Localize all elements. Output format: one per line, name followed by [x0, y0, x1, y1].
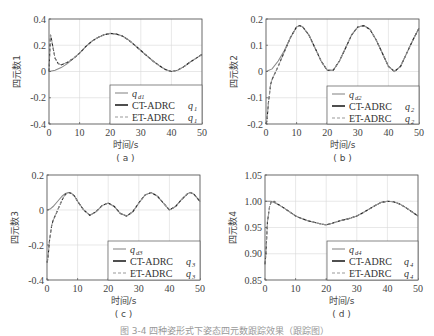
legend-subscript: 1	[194, 105, 197, 112]
x-tick-label: 40	[383, 127, 393, 138]
y-axis-label: 四元数4	[227, 211, 238, 244]
y-tick-label: -0.1	[247, 92, 263, 103]
x-tick-label: 10	[73, 283, 83, 294]
y-tick-label: 0.90	[245, 248, 263, 259]
x-tick-label: 30	[136, 127, 146, 138]
x-tick-label: 0	[264, 127, 269, 138]
y-tick-label: 1.00	[245, 196, 263, 207]
legend-subscript: 1	[194, 117, 197, 124]
x-tick-label: 50	[197, 127, 207, 138]
series-line-ct-adrc	[49, 33, 202, 71]
x-tick-label: 50	[413, 283, 423, 294]
x-tick-label: 0	[47, 127, 52, 138]
y-tick-label: 0.85	[245, 275, 263, 286]
legend: qd3CT-ADRCq3ET-ADRCq3	[108, 241, 200, 280]
x-tick-label: 40	[164, 283, 174, 294]
y-tick-label: -0.2	[28, 240, 44, 251]
x-axis-label: 时间/s	[113, 139, 139, 150]
y-tick-label: -0.2	[30, 92, 46, 103]
legend-symbol: q	[130, 244, 135, 255]
subplot-label: ( a )	[116, 153, 134, 163]
y-tick-label: -0.2	[247, 119, 263, 130]
y-tick-label: 0.2	[251, 14, 264, 25]
y-axis-label: 四元数3	[9, 211, 20, 244]
y-tick-label: 0.4	[34, 14, 47, 25]
legend-symbol: q	[405, 113, 410, 124]
series-line-reference	[266, 26, 419, 72]
series-line-reference	[49, 33, 202, 71]
subplot-d: 010203040500.850.900.951.001.05时间/s四元数4(…	[227, 170, 423, 320]
legend: qd2CT-ADRCq2ET-ADRCq2	[327, 86, 419, 125]
x-axis-label: 时间/s	[329, 295, 355, 306]
x-tick-label: 20	[103, 283, 113, 294]
legend-label: ET-ADRC	[130, 268, 173, 279]
x-tick-label: 10	[292, 127, 302, 138]
x-tick-label: 30	[352, 283, 362, 294]
legend-symbol: q	[349, 244, 354, 255]
x-tick-label: 50	[195, 283, 205, 294]
y-tick-label: 0.2	[32, 170, 45, 181]
legend-label: ET-ADRC	[132, 112, 175, 123]
y-tick-label: 0	[39, 205, 44, 216]
y-tick-label: -0.4	[30, 119, 46, 130]
legend-symbol: q	[405, 101, 410, 112]
subplot-c: 01020304050-0.4-0.200.2时间/s四元数3( c )qd3C…	[9, 170, 205, 320]
legend-symbol: q	[132, 88, 137, 99]
x-tick-label: 30	[134, 283, 144, 294]
legend-symbol: q	[186, 256, 191, 267]
legend-label: ET-ADRC	[349, 268, 392, 279]
legend-label: ET-ADRC	[349, 113, 392, 124]
figure-caption: 图 3-4 四种姿形式下姿态四元数跟踪效果（跟踪图）	[120, 325, 329, 336]
subplot-a: 01020304050-0.4-0.200.20.4时间/s四元数1( a )q…	[11, 14, 207, 164]
y-tick-label: 1.05	[245, 170, 263, 181]
x-tick-label: 20	[105, 127, 115, 138]
y-tick-label: 0	[41, 66, 46, 77]
series-line-reference	[265, 201, 418, 225]
legend-label: CT-ADRC	[132, 100, 175, 111]
x-axis-label: 时间/s	[330, 139, 356, 150]
y-tick-label: 0.2	[34, 40, 47, 51]
figure-canvas: 01020304050-0.4-0.200.20.4时间/s四元数1( a )q…	[0, 0, 434, 336]
subplot-b: 01020304050-0.2-0.100.10.2时间/s四元数2( b )q…	[228, 14, 424, 164]
x-tick-label: 20	[322, 127, 332, 138]
x-tick-label: 20	[321, 283, 331, 294]
subplot-label: ( b )	[333, 153, 351, 163]
x-tick-label: 40	[382, 283, 392, 294]
y-tick-label: 0.95	[245, 222, 263, 233]
y-tick-label: 0	[258, 66, 263, 77]
x-tick-label: 10	[291, 283, 301, 294]
legend-symbol: q	[188, 100, 193, 111]
legend-label: CT-ADRC	[349, 101, 392, 112]
y-tick-label: 0.1	[251, 40, 264, 51]
legend-symbol: q	[186, 268, 191, 279]
x-tick-label: 30	[353, 127, 363, 138]
series-line-et-adrc	[49, 33, 202, 71]
legend-symbol: q	[404, 256, 409, 267]
y-axis-label: 四元数1	[11, 55, 22, 88]
x-tick-label: 0	[263, 283, 268, 294]
y-axis-label: 四元数2	[228, 55, 239, 88]
legend: qd1CT-ADRCq1ET-ADRCq1	[110, 85, 202, 124]
legend: qd4CT-ADRCq4ET-ADRCq4	[327, 241, 418, 280]
subplot-label: ( c )	[115, 309, 133, 319]
y-tick-label: -0.4	[28, 275, 44, 286]
legend-label: CT-ADRC	[130, 256, 173, 267]
legend-symbol: q	[188, 112, 193, 123]
legend-symbol: q	[349, 89, 354, 100]
x-tick-label: 0	[45, 283, 50, 294]
x-tick-label: 40	[166, 127, 176, 138]
legend-symbol: q	[404, 268, 409, 279]
subplot-label: ( d )	[332, 309, 350, 319]
legend-label: CT-ADRC	[349, 256, 392, 267]
x-tick-label: 10	[75, 127, 85, 138]
x-tick-label: 50	[414, 127, 424, 138]
x-axis-label: 时间/s	[111, 295, 137, 306]
